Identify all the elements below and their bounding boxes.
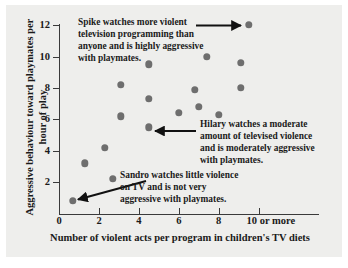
x-axis-title: Number of violent acts per program in ch… (40, 232, 320, 245)
plot-area: 24681012 0246810 or more Spike watches m… (0, 0, 348, 268)
figure-scatter-plot: 24681012 0246810 or more Spike watches m… (0, 0, 348, 268)
y-axis-title: Aggressive behaviour toward playmates pe… (23, 17, 49, 217)
annotation-sandro: Sandro watches little violence on TV and… (120, 170, 246, 206)
annotation-hilary: Hilary watches a moderate amount of tele… (200, 119, 326, 166)
annotation-spike: Spike watches more violent television pr… (78, 17, 210, 64)
